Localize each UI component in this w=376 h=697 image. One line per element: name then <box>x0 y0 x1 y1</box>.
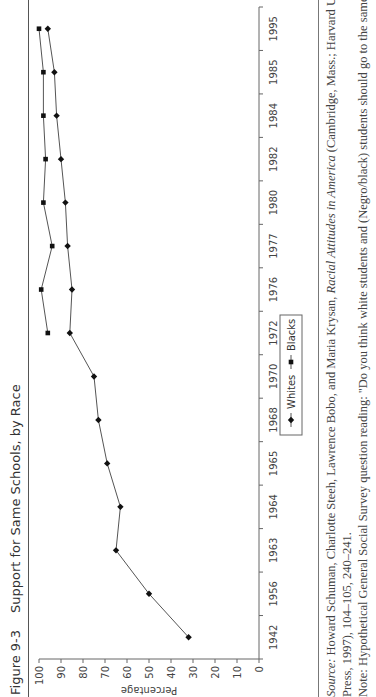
x-tick-label: 1976 <box>268 277 279 302</box>
source-book-title: Racial Attitudes in America <box>324 155 338 293</box>
legend-label-blacks: Blacks <box>286 319 297 351</box>
x-tick-label: 1977 <box>268 233 279 258</box>
data-point-blacks <box>43 157 48 162</box>
x-tick-label: 1964 <box>268 494 279 519</box>
x-tick-label: 1972 <box>268 320 279 345</box>
y-tick-label: 10 <box>232 666 243 679</box>
data-point-blacks <box>41 113 46 118</box>
data-point-whites <box>45 26 51 32</box>
y-tick-label: 50 <box>144 666 155 679</box>
y-tick-label: 70 <box>100 666 111 679</box>
data-point-whites <box>95 417 101 423</box>
data-point-blacks <box>41 200 46 205</box>
y-tick-label: 30 <box>188 666 199 679</box>
x-tick-label: 1984 <box>268 103 279 128</box>
data-point-whites <box>117 504 123 510</box>
x-tick-label: 1942 <box>268 625 279 650</box>
data-point-whites <box>69 286 75 292</box>
x-tick-label: 1980 <box>268 190 279 215</box>
source-line-2: Press, 1997), 104–105, 240–241. <box>339 0 355 697</box>
data-point-whites <box>51 69 57 75</box>
source-note: Source: Howard Schuman, Charlotte Steeh,… <box>318 0 371 697</box>
note-line: Note: Hypothetical General Social Survey… <box>355 0 371 697</box>
y-tick-label: 20 <box>210 666 221 679</box>
data-point-blacks <box>41 70 46 75</box>
x-tick-label: 1956 <box>268 581 279 606</box>
figure-title: Support for Same Schools, by Race <box>8 384 23 613</box>
x-tick-label: 1970 <box>268 364 279 389</box>
line-chart: 0102030405060708090100Percentage19421956… <box>28 0 318 697</box>
data-point-whites <box>64 243 70 249</box>
legend-marker-blacks <box>289 360 294 365</box>
data-point-whites <box>67 330 73 336</box>
data-point-whites <box>91 373 97 379</box>
x-tick-label: 1965 <box>268 451 279 476</box>
y-tick-label: 90 <box>56 666 67 679</box>
data-point-whites <box>53 112 59 118</box>
figure-title-bar: Figure 9-3 Support for Same Schools, by … <box>2 0 29 697</box>
data-point-blacks <box>37 26 42 31</box>
y-tick-label: 40 <box>166 666 177 679</box>
x-tick-label: 1968 <box>268 407 279 432</box>
x-tick-label: 1963 <box>268 538 279 563</box>
data-point-blacks <box>39 287 44 292</box>
y-tick-label: 100 <box>34 666 45 685</box>
legend-label-whites: Whites <box>286 375 297 409</box>
source-line-1: Source: Howard Schuman, Charlotte Steeh,… <box>323 0 339 697</box>
data-point-blacks <box>50 244 55 249</box>
figure-page: Figure 9-3 Support for Same Schools, by … <box>0 0 376 697</box>
y-tick-label: 60 <box>122 666 133 679</box>
source-label: Source: <box>324 659 338 697</box>
y-tick-label: 0 <box>254 666 265 672</box>
x-tick-label: 1982 <box>268 146 279 171</box>
data-point-whites <box>104 460 110 466</box>
y-axis-label: Percentage <box>121 685 177 696</box>
source-authors: Howard Schuman, Charlotte Steeh, Lawrenc… <box>324 293 338 655</box>
data-point-whites <box>58 156 64 162</box>
figure-number: Figure 9-3 <box>8 613 23 695</box>
x-tick-label: 1995 <box>268 16 279 41</box>
data-point-whites <box>62 199 68 205</box>
source-publisher: (Cambridge, Mass.; Harvard University <box>324 0 338 155</box>
x-tick-label: 1985 <box>268 59 279 84</box>
data-point-blacks <box>46 331 51 336</box>
y-tick-label: 80 <box>78 666 89 679</box>
